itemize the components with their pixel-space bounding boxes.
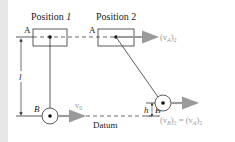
point-A-label-2: A <box>89 25 96 35</box>
velocity-label-vB2: (vB)2 = (vA)2 <box>160 115 202 126</box>
point-A-label-1: A <box>24 25 31 35</box>
datum-label: Datum <box>93 120 118 130</box>
bob-center-dot-1 <box>48 114 52 118</box>
rod-position-2 <box>116 37 158 97</box>
position-1-label: Position 1 <box>31 11 71 22</box>
pendulum-energy-diagram: Position 1 Position 2 A A (vA)2 l B v0 D… <box>0 0 235 142</box>
velocity-label-vA2: (vA)2 <box>160 32 177 43</box>
height-label: h <box>144 105 149 115</box>
position-2-label: Position 2 <box>96 11 136 22</box>
point-B-label-1: B <box>34 104 40 114</box>
velocity-label-v0: v0 <box>75 100 82 111</box>
bob-center-dot-2 <box>161 101 165 105</box>
